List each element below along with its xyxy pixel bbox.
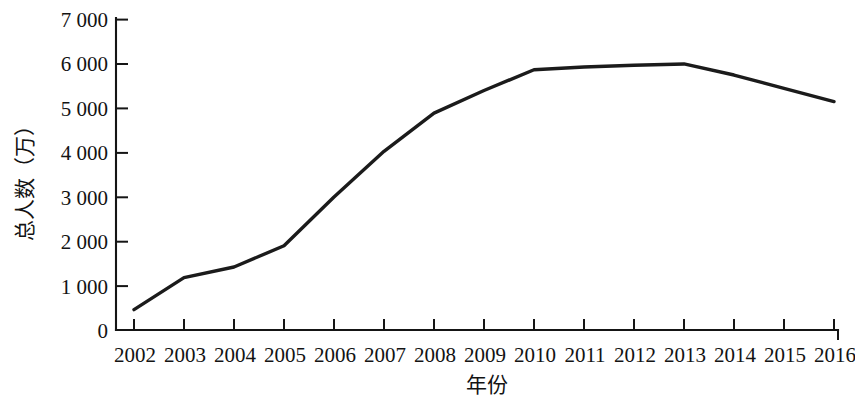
x-axis-tick-labels: 2002 2003 2004 2005 2006 2007 2008 2009 … xyxy=(114,343,855,367)
y-tick-label: 0 xyxy=(98,319,109,343)
y-axis-ticks xyxy=(116,20,128,287)
x-tick-label: 2013 xyxy=(664,343,706,367)
y-tick-label: 1 000 xyxy=(61,275,108,299)
y-tick-label: 2 000 xyxy=(61,230,108,254)
x-tick-label: 2009 xyxy=(464,343,506,367)
y-tick-label: 3 000 xyxy=(61,186,108,210)
x-tick-label: 2004 xyxy=(214,343,257,367)
x-axis-ticks xyxy=(134,319,834,330)
x-tick-label: 2003 xyxy=(164,343,206,367)
x-tick-label: 2011 xyxy=(564,343,605,367)
x-axis-title: 年份 xyxy=(466,373,508,397)
y-tick-label: 5 000 xyxy=(61,97,108,121)
x-tick-label: 2010 xyxy=(514,343,556,367)
x-tick-label: 2002 xyxy=(114,343,156,367)
y-axis-title: 总人数（万） xyxy=(13,115,37,241)
y-tick-label: 6 000 xyxy=(61,52,108,76)
chart-canvas: 7 000 6 000 5 000 4 000 3 000 2 000 1 00… xyxy=(0,0,855,399)
x-tick-label: 2007 xyxy=(364,343,406,367)
x-tick-label: 2008 xyxy=(414,343,456,367)
data-series-line xyxy=(134,64,834,310)
y-axis-tick-labels: 7 000 6 000 5 000 4 000 3 000 2 000 1 00… xyxy=(61,8,108,343)
x-tick-label: 2016 xyxy=(814,343,855,367)
y-tick-label: 4 000 xyxy=(61,141,108,165)
x-tick-label: 2014 xyxy=(714,343,757,367)
x-tick-label: 2012 xyxy=(614,343,656,367)
line-chart-figure: 7 000 6 000 5 000 4 000 3 000 2 000 1 00… xyxy=(0,0,855,399)
x-tick-label: 2006 xyxy=(314,343,356,367)
y-tick-label: 7 000 xyxy=(61,8,108,32)
x-tick-label: 2005 xyxy=(264,343,306,367)
x-tick-label: 2015 xyxy=(764,343,806,367)
